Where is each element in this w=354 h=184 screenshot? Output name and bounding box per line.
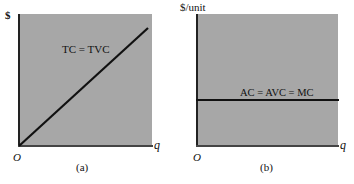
panel-a-curve-label: TC = TVC [62, 43, 110, 55]
panel-b-caption: (b) [260, 161, 273, 173]
panel-b-curve-label: AC = AVC = MC [240, 87, 314, 98]
panel-a-y-label: $ [5, 9, 11, 21]
panel-b-origin-label: O [193, 151, 201, 163]
panel-b-plot-area [197, 14, 338, 146]
panel-b-y-axis [196, 14, 198, 147]
panel-a-x-label: q [154, 138, 160, 153]
panel-b-x-axis [196, 145, 339, 147]
panel-b-ac-line [196, 99, 339, 101]
panel-b-x-label: q [340, 138, 346, 153]
panel-b-y-label: $/unit [180, 1, 206, 13]
panel-a-origin-label: O [13, 151, 21, 163]
panel-a-caption: (a) [76, 161, 88, 173]
